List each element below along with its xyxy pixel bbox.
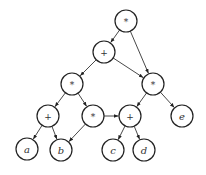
edge-n6-n10 [69, 124, 86, 142]
edge-n3-n5 [55, 93, 66, 107]
edge-n2-n3 [80, 60, 96, 76]
edge-n3-n6 [78, 93, 87, 106]
edge-n1-n2 [111, 30, 120, 43]
node-label: a [24, 144, 30, 155]
node-label: + [44, 112, 52, 122]
operator-node-n4: * [142, 73, 164, 95]
edge-n2-n4 [113, 58, 143, 78]
edge-n7-n12 [134, 126, 139, 139]
operator-node-n6: * [82, 105, 104, 127]
operator-node-n1: * [115, 10, 137, 32]
edge-n1-n4 [130, 31, 148, 73]
node-label: + [100, 48, 108, 58]
expression-dag: *+**+*+eabcd [0, 0, 206, 175]
operator-node-n3: * [61, 73, 83, 95]
node-label: * [124, 17, 129, 27]
leaf-node-n10: b [50, 139, 72, 161]
leaf-node-n9: a [16, 138, 38, 160]
edge-n4-n7 [137, 93, 147, 107]
node-label: * [151, 80, 156, 90]
node-label: c [110, 145, 116, 156]
operator-node-n5: + [37, 105, 59, 127]
operator-node-n7: + [119, 105, 141, 127]
leaf-node-n11: c [102, 139, 124, 161]
leaf-node-n8: e [171, 105, 193, 127]
node-label: * [70, 80, 75, 90]
node-label: + [126, 112, 134, 122]
node-label: d [141, 145, 147, 156]
edge-n7-n11 [118, 126, 125, 140]
edge-n5-n9 [33, 125, 42, 139]
node-label: b [58, 145, 64, 156]
node-label: * [91, 112, 96, 122]
operator-node-n2: + [93, 41, 115, 63]
edge-n4-n8 [160, 92, 174, 107]
edge-n5-n10 [52, 126, 57, 139]
node-label: e [179, 111, 185, 122]
leaf-node-n12: d [133, 139, 155, 161]
